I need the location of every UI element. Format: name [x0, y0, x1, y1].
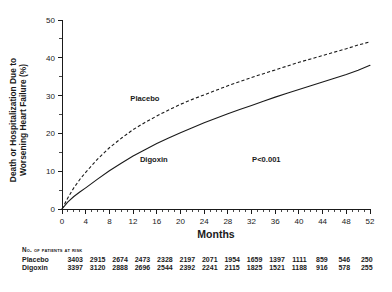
x-tick-label: 32: [247, 217, 256, 226]
x-tick-label: 48: [342, 217, 351, 226]
p-value-annotation: P<0.001: [252, 155, 281, 164]
risk-cell: 3403: [64, 255, 86, 263]
figure-container: 010203040500481216202428323640444852 Pla…: [0, 0, 392, 292]
curve-digoxin: [62, 65, 370, 209]
risk-cell: 1825: [243, 263, 265, 271]
risk-cell: 2392: [176, 263, 198, 271]
curves: [62, 42, 370, 209]
table-row: Digoxin339731202888269625442392224121151…: [22, 263, 378, 271]
axes: [58, 20, 371, 214]
y-axis-label-line2: Worsening Heart Failure (%): [18, 64, 28, 176]
y-tick-label: 0: [51, 205, 56, 214]
risk-cell: 2544: [154, 263, 176, 271]
risk-table-title: No. of Patients at Risk: [22, 246, 382, 253]
risk-cell: 2888: [109, 263, 131, 271]
x-axis-label: Months: [197, 228, 234, 240]
x-tick-label: 40: [294, 217, 303, 226]
risk-cell: 1659: [243, 255, 265, 263]
plot-annotations: PlaceboDigoxinP<0.001: [130, 94, 281, 163]
y-axis-label-line1: Death or Hospitalization Due to: [8, 58, 18, 182]
risk-row-label: Placebo: [22, 255, 64, 263]
risk-cell: 2115: [221, 263, 243, 271]
risk-cell: 250: [355, 255, 378, 263]
risk-cell: 3120: [86, 263, 108, 271]
table-row: Placebo340329152674247323282197207119541…: [22, 255, 378, 263]
risk-cell: 1111: [288, 255, 310, 263]
y-tick-label: 40: [46, 54, 55, 63]
y-tick-label: 50: [46, 16, 55, 25]
risk-cell: 2241: [199, 263, 221, 271]
x-tick-label: 0: [60, 217, 65, 226]
series-label-placebo: Placebo: [130, 94, 159, 103]
risk-cell: 2328: [154, 255, 176, 263]
series-label-digoxin: Digoxin: [140, 155, 168, 164]
x-tick-label: 12: [129, 217, 138, 226]
risk-cell: 2674: [109, 255, 131, 263]
risk-cell: 578: [333, 263, 355, 271]
patients-at-risk-table: No. of Patients at Risk Placebo340329152…: [22, 246, 382, 272]
tick-labels: 010203040500481216202428323640444852: [46, 16, 375, 226]
risk-cell: 1397: [266, 255, 288, 263]
risk-values-table: Placebo340329152674247323282197207119541…: [22, 255, 378, 272]
risk-cell: 546: [333, 255, 355, 263]
x-tick-label: 36: [271, 217, 280, 226]
risk-cell: 2473: [131, 255, 153, 263]
y-tick-label: 20: [46, 129, 55, 138]
x-tick-label: 8: [107, 217, 112, 226]
risk-row-label: Digoxin: [22, 263, 64, 271]
x-tick-label: 44: [318, 217, 327, 226]
y-tick-label: 10: [46, 167, 55, 176]
x-tick-label: 4: [83, 217, 88, 226]
risk-cell: 859: [311, 255, 333, 263]
risk-cell: 2696: [131, 263, 153, 271]
x-tick-label: 20: [176, 217, 185, 226]
x-tick-label: 28: [223, 217, 232, 226]
risk-cell: 2915: [86, 255, 108, 263]
risk-cell: 3397: [64, 263, 86, 271]
y-tick-label: 30: [46, 92, 55, 101]
risk-cell: 916: [311, 263, 333, 271]
x-tick-label: 52: [366, 217, 375, 226]
risk-cell: 1954: [221, 255, 243, 263]
curve-placebo: [62, 42, 370, 209]
risk-cell: 1521: [266, 263, 288, 271]
risk-cell: 255: [355, 263, 378, 271]
risk-cell: 1188: [288, 263, 310, 271]
x-tick-label: 16: [152, 217, 161, 226]
x-tick-label: 24: [200, 217, 209, 226]
risk-cell: 2197: [176, 255, 198, 263]
risk-cell: 2071: [199, 255, 221, 263]
